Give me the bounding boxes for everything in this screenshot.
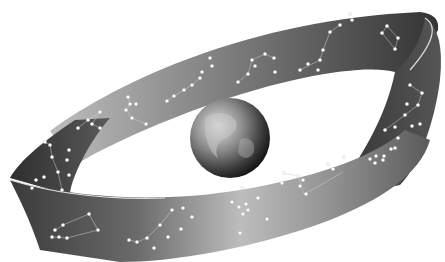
zodiac-band-graphic (0, 0, 445, 262)
zodiac-illustration (0, 0, 445, 262)
earth-globe-icon (190, 98, 270, 178)
